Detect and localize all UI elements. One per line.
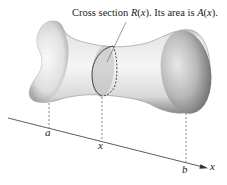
caption-suffix: . bbox=[215, 7, 218, 18]
x-axis-arrowhead bbox=[199, 164, 208, 169]
caption-prefix: Cross section bbox=[72, 7, 131, 18]
tick-label-a: a bbox=[45, 126, 51, 138]
caption-area-arg: (x) bbox=[204, 7, 216, 18]
axis-label-x: x bbox=[210, 160, 215, 172]
tick-label-x: x bbox=[98, 139, 103, 151]
solid-diagram bbox=[0, 0, 227, 185]
caption: Cross section R(x). Its area is A(x). bbox=[72, 7, 218, 18]
tick-label-b: b bbox=[182, 163, 188, 175]
caption-section-arg: (x) bbox=[137, 7, 149, 18]
x-axis bbox=[8, 118, 203, 167]
caption-middle: . Its area is bbox=[149, 7, 197, 18]
